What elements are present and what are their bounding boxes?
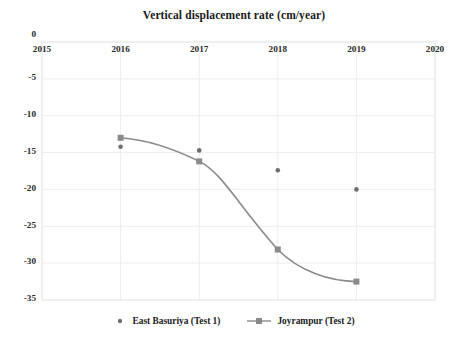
y-tick-label-0: 0 [4,29,36,39]
line-square-marker-icon [246,316,272,326]
x-tick-label-2017: 2017 [176,44,222,54]
legend-item-east-basuriya[interactable]: East Basuriya (Test 1) [113,316,220,326]
x-tick-label-2015: 2015 [19,44,65,54]
x-tick-label-2018: 2018 [255,44,301,54]
x-tick-label-2016: 2016 [98,44,144,54]
y-tick-label-1: -5 [4,72,36,82]
y-tick-label-3: -15 [4,146,36,156]
legend-label-east-basuriya: East Basuriya (Test 1) [132,316,220,326]
chart-legend: East Basuriya (Test 1) Joyrampur (Test 2… [0,316,468,326]
y-tick-label-6: -30 [4,256,36,266]
y-tick-label-7: -35 [4,293,36,303]
y-tick-label-4: -20 [4,183,36,193]
chart-container: Vertical displacement rate (cm/year) [0,0,468,342]
dot-marker-icon [113,316,127,326]
y-tick-label-5: -25 [4,220,36,230]
legend-label-joyrampur: Joyrampur (Test 2) [277,316,354,326]
legend-item-joyrampur[interactable]: Joyrampur (Test 2) [246,316,354,326]
x-tick-label-2019: 2019 [333,44,379,54]
y-tick-label-2: -10 [4,109,36,119]
x-tick-label-2020: 2020 [412,44,458,54]
plot-frame [42,42,435,300]
plot-area [0,0,468,342]
